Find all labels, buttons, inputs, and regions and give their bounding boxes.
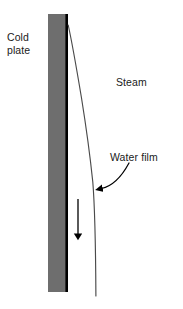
condensation-diagram: Cold plate Steam Water film	[0, 0, 183, 309]
water-film-curve	[68, 25, 96, 296]
steam-label: Steam	[116, 76, 147, 89]
water-film-leader-arrow	[102, 163, 130, 189]
water-film-label: Water film	[110, 151, 158, 164]
cold-plate-label: Cold plate	[7, 31, 30, 56]
cold-plate-edge	[65, 14, 68, 292]
cold-plate-body	[48, 14, 66, 292]
